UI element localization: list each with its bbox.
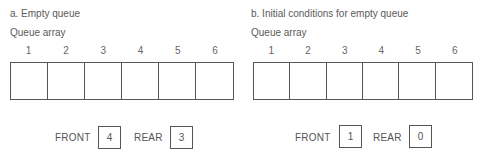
array-index: 5 (159, 45, 196, 57)
array-cell (196, 63, 233, 99)
queue-array (253, 62, 473, 100)
panel-caption: b. Initial conditions for empty queue (251, 8, 408, 19)
front-label: FRONT (295, 132, 330, 143)
array-cell (159, 63, 196, 99)
array-cell (48, 63, 85, 99)
array-cell (122, 63, 159, 99)
array-index: 1 (253, 45, 290, 57)
array-index: 4 (122, 45, 159, 57)
array-cell (327, 63, 363, 99)
array-index: 1 (10, 45, 47, 57)
array-cell (399, 63, 435, 99)
rear-value-box: 3 (170, 126, 193, 149)
array-indices: 1 2 3 4 5 6 (10, 45, 234, 57)
array-cell (436, 63, 472, 99)
array-index: 5 (400, 45, 437, 57)
array-index: 4 (363, 45, 400, 57)
rear-label: REAR (373, 132, 402, 143)
rear-value-box: 0 (409, 125, 432, 148)
array-cell (11, 63, 48, 99)
queue-array-label: Queue array (251, 27, 307, 38)
panel-empty-queue: a. Empty queue Queue array 1 2 3 4 5 6 F… (0, 0, 240, 161)
array-index: 3 (85, 45, 122, 57)
array-cell (85, 63, 122, 99)
queue-array-label: Queue array (10, 27, 66, 38)
front-value-box: 1 (339, 125, 362, 148)
array-indices: 1 2 3 4 5 6 (253, 45, 473, 57)
front-value-box: 4 (98, 126, 121, 149)
array-cell (363, 63, 399, 99)
panel-caption: a. Empty queue (10, 8, 80, 19)
front-label: FRONT (55, 132, 90, 143)
array-index: 6 (436, 45, 473, 57)
array-index: 2 (47, 45, 84, 57)
array-index: 2 (290, 45, 327, 57)
array-index: 6 (196, 45, 233, 57)
queue-array (10, 62, 234, 100)
array-index: 3 (326, 45, 363, 57)
panel-initial-conditions: b. Initial conditions for empty queue Qu… (240, 0, 481, 161)
array-cell (254, 63, 290, 99)
rear-label: REAR (134, 132, 163, 143)
array-cell (290, 63, 326, 99)
